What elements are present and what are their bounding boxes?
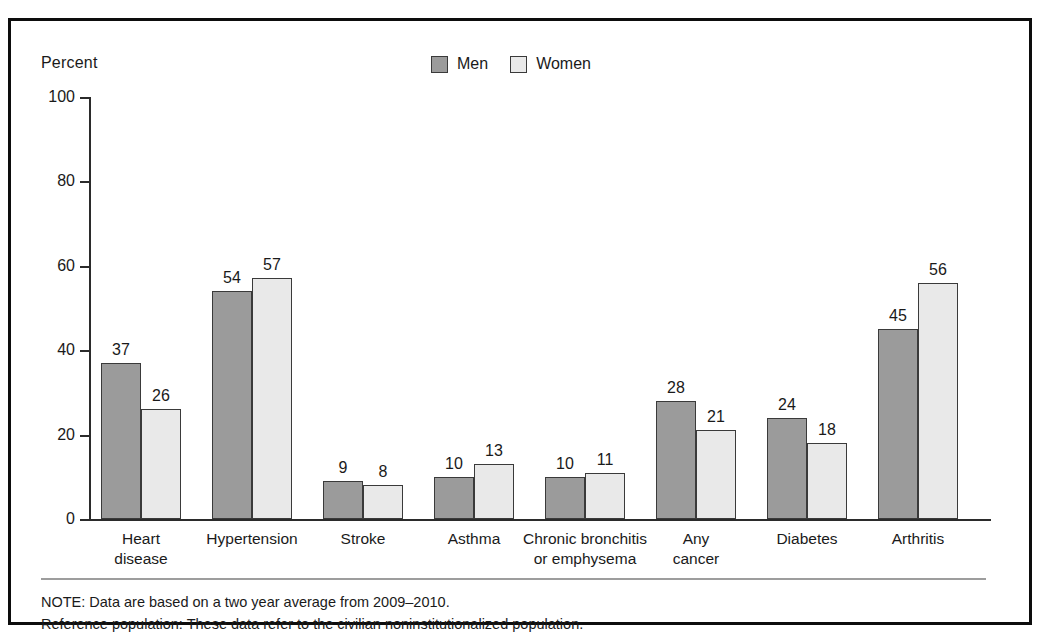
category-label-line: Any xyxy=(673,529,720,549)
category-label-line: Chronic bronchitis xyxy=(523,529,647,549)
notes-block: NOTE: Data are based on a two year avera… xyxy=(41,591,583,636)
bar-value-label: 56 xyxy=(929,261,947,279)
y-tick-label: 100 xyxy=(48,88,75,106)
chart-frame: Percent Men Women 020406080100 372654579… xyxy=(8,18,1032,625)
category-label-line: disease xyxy=(114,549,167,569)
category-label-5: Anycancer xyxy=(673,529,720,570)
bar-value-label: 57 xyxy=(263,256,281,274)
y-tick-label: 40 xyxy=(57,341,75,359)
category-label-line: Hypertension xyxy=(206,529,297,549)
y-tick-mark xyxy=(80,181,89,183)
y-tick-mark xyxy=(80,350,89,352)
category-label-line: Stroke xyxy=(341,529,386,549)
bar-women-1: 57 xyxy=(252,278,292,519)
legend-label-men: Men xyxy=(457,55,488,73)
bar-value-label: 10 xyxy=(445,455,463,473)
y-tick-mark xyxy=(80,266,89,268)
bar-value-label: 9 xyxy=(339,459,348,477)
category-label-line: or emphysema xyxy=(523,549,647,569)
bar-men-4: 10 xyxy=(545,477,585,519)
y-axis-line xyxy=(89,97,91,519)
bar-value-label: 45 xyxy=(889,307,907,325)
bar-value-label: 54 xyxy=(223,269,241,287)
x-axis-line xyxy=(89,519,991,521)
note-line-2: Reference population: These data refer t… xyxy=(41,613,583,635)
bar-men-7: 45 xyxy=(878,329,918,519)
bar-women-2: 8 xyxy=(363,485,403,519)
category-label-4: Chronic bronchitisor emphysema xyxy=(523,529,647,570)
y-tick-label: 0 xyxy=(66,510,75,528)
y-tick-label: 80 xyxy=(57,172,75,190)
bar-value-label: 13 xyxy=(485,442,503,460)
bar-value-label: 10 xyxy=(556,455,574,473)
y-tick-mark xyxy=(80,519,89,521)
y-tick-mark xyxy=(80,97,89,99)
legend-label-women: Women xyxy=(536,55,591,73)
bar-men-5: 28 xyxy=(656,401,696,519)
y-axis-title: Percent xyxy=(41,54,98,72)
bar-value-label: 11 xyxy=(597,451,614,469)
bar-value-label: 28 xyxy=(667,379,685,397)
category-label-1: Hypertension xyxy=(206,529,297,549)
bar-men-0: 37 xyxy=(101,363,141,519)
legend-swatch-men xyxy=(431,56,448,73)
chart-legend: Men Women xyxy=(431,55,591,73)
bar-value-label: 26 xyxy=(152,387,170,405)
legend-item-women: Women xyxy=(510,55,591,73)
bar-women-7: 56 xyxy=(918,283,958,519)
bar-value-label: 21 xyxy=(707,408,725,426)
bar-men-1: 54 xyxy=(212,291,252,519)
bar-women-0: 26 xyxy=(141,409,181,519)
notes-divider xyxy=(41,578,986,580)
category-label-line: Heart xyxy=(114,529,167,549)
category-label-line: Diabetes xyxy=(776,529,837,549)
plot-area: 020406080100 372654579810131011282124184… xyxy=(89,97,991,519)
bar-value-label: 24 xyxy=(778,396,796,414)
category-label-0: Heartdisease xyxy=(114,529,167,570)
category-label-7: Arthritis xyxy=(892,529,945,549)
note-line-1: NOTE: Data are based on a two year avera… xyxy=(41,591,583,613)
bar-value-label: 37 xyxy=(112,341,130,359)
category-label-line: Arthritis xyxy=(892,529,945,549)
y-tick-label: 20 xyxy=(57,426,75,444)
legend-swatch-women xyxy=(510,56,527,73)
category-label-line: cancer xyxy=(673,549,720,569)
chart-page: Percent Men Women 020406080100 372654579… xyxy=(0,0,1040,639)
bar-women-4: 11 xyxy=(585,473,625,519)
bar-women-5: 21 xyxy=(696,430,736,519)
y-tick-label: 60 xyxy=(57,257,75,275)
bar-women-3: 13 xyxy=(474,464,514,519)
bar-men-6: 24 xyxy=(767,418,807,519)
bar-men-3: 10 xyxy=(434,477,474,519)
category-label-line: Asthma xyxy=(448,529,501,549)
y-tick-mark xyxy=(80,435,89,437)
bar-value-label: 18 xyxy=(818,421,836,439)
category-label-2: Stroke xyxy=(341,529,386,549)
bar-value-label: 8 xyxy=(379,463,388,481)
bar-women-6: 18 xyxy=(807,443,847,519)
category-label-3: Asthma xyxy=(448,529,501,549)
legend-item-men: Men xyxy=(431,55,488,73)
bar-men-2: 9 xyxy=(323,481,363,519)
category-label-6: Diabetes xyxy=(776,529,837,549)
